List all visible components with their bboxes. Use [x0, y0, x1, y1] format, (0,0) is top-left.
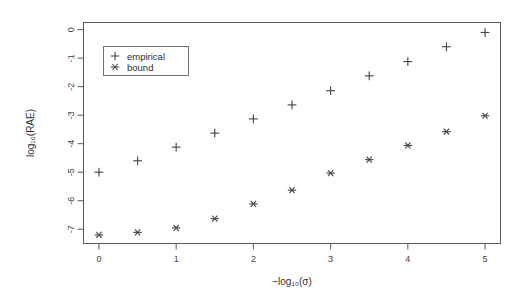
plot-svg: 0-1-2-3-4-5-6-7 012345 log₁₀(RAE) −log₁₀… — [0, 0, 531, 297]
legend-label-empirical: empirical — [127, 51, 165, 62]
x-tick-label: 1 — [174, 254, 179, 264]
x-tick-label: 3 — [328, 254, 333, 264]
legend-label-bound: bound — [127, 62, 153, 73]
y-axis-title: log₁₀(RAE) — [25, 109, 36, 157]
figure-background — [0, 0, 531, 297]
y-tick-label: -3 — [67, 111, 77, 119]
x-tick-label: 5 — [483, 254, 488, 264]
scatter-plot-figure: 0-1-2-3-4-5-6-7 012345 log₁₀(RAE) −log₁₀… — [0, 0, 531, 297]
legend: empirical bound — [104, 47, 189, 76]
x-tick-label: 2 — [251, 254, 256, 264]
y-tick-label: -4 — [67, 140, 77, 148]
y-tick-label: 0 — [67, 27, 77, 32]
x-tick-label: 4 — [405, 254, 410, 264]
x-tick-label: 0 — [96, 254, 101, 264]
y-tick-label: -5 — [67, 168, 77, 176]
y-tick-label: -6 — [67, 197, 77, 205]
y-tick-label: -7 — [67, 225, 77, 233]
y-tick-label: -1 — [67, 54, 77, 62]
x-axis-title: −log₁₀(σ) — [272, 276, 312, 287]
y-tick-label: -2 — [67, 83, 77, 91]
